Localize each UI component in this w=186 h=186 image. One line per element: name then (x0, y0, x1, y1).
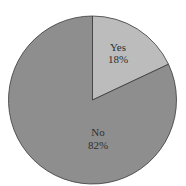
slice-label-yes: Yes 18% (108, 41, 128, 65)
no-label: No (91, 126, 105, 138)
yes-percent: 18% (108, 53, 128, 65)
pie-slices (9, 16, 177, 184)
pie-chart: Yes 18% No 82% (0, 0, 186, 186)
yes-label: Yes (110, 41, 126, 53)
no-percent: 82% (88, 139, 108, 151)
